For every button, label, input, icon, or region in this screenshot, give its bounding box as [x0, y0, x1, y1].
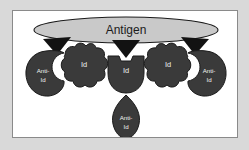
left-id-group[interactable]: Id [61, 43, 108, 87]
center-id-group[interactable]: Id [108, 56, 144, 93]
left-id-label: Id [81, 60, 87, 69]
right-anti-id-group[interactable]: Anti- Id [188, 51, 226, 96]
right-id-label: Id [165, 60, 171, 69]
figure-canvas: Antigen Anti- Id Id [0, 0, 249, 150]
left-anti-id-label-line2: Id [40, 76, 46, 83]
left-anti-id-group[interactable]: Anti- Id [26, 51, 64, 96]
diagram-panel: Antigen Anti- Id Id [12, 10, 238, 138]
center-anti-id-group[interactable]: Anti- Id [113, 95, 140, 138]
center-anti-id-label-line2: Id [123, 123, 129, 130]
right-id-group[interactable]: Id [144, 43, 191, 87]
center-id-label: Id [123, 66, 129, 75]
diagram-svg-wrapper: Antigen Anti- Id Id [13, 11, 238, 138]
left-anti-id-label-line1: Anti- [37, 67, 50, 74]
arrow-down-center-icon [112, 40, 140, 58]
antigen-label: Antigen [106, 23, 147, 37]
right-anti-id-label-line2: Id [206, 76, 212, 83]
center-anti-id-label-line1: Anti- [120, 114, 133, 121]
right-anti-id-label-line1: Anti- [203, 67, 216, 74]
